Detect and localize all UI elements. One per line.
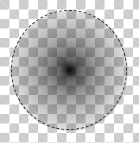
elliptical-selection-outline[interactable] bbox=[11, 10, 127, 130]
transparent-canvas[interactable] bbox=[0, 0, 139, 143]
